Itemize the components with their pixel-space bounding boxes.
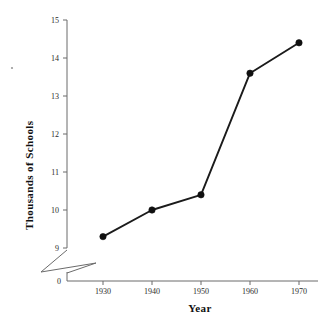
data-series [100, 40, 302, 240]
y-tick-label-14: 14 [51, 54, 59, 63]
y-tick-label-15: 15 [51, 16, 59, 25]
x-tick-label-1930: 1930 [95, 287, 111, 296]
line-chart: 15 14 13 12 11 10 9 0 Thousands of Schoo… [0, 0, 327, 316]
data-point-1960 [247, 70, 253, 76]
y-axis: 15 14 13 12 11 10 9 0 Thousands of Schoo… [23, 16, 96, 286]
y-tick-label-9: 9 [55, 244, 59, 253]
data-point-1970 [296, 40, 302, 46]
x-tick-label-1940: 1940 [144, 287, 160, 296]
y-tick-label-10: 10 [51, 206, 59, 215]
data-point-1930 [100, 233, 106, 239]
y-tick-label-12: 12 [51, 130, 59, 139]
x-axis-title: Year [188, 302, 212, 314]
series-line [103, 43, 299, 237]
y-axis-title: Thousands of Schools [23, 120, 35, 230]
x-tick-label-1960: 1960 [242, 287, 258, 296]
y-tick-label-13: 13 [51, 92, 59, 101]
axis-break-icon [41, 250, 96, 273]
x-tick-label-1950: 1950 [193, 287, 209, 296]
scan-speck [11, 67, 13, 69]
x-tick-label-1970: 1970 [291, 287, 307, 296]
data-point-1950 [198, 192, 204, 198]
y-tick-label-11: 11 [51, 168, 59, 177]
x-axis: 1930 1940 1950 1960 1970 Year [67, 281, 318, 314]
series-markers [100, 40, 302, 240]
chart-canvas: 15 14 13 12 11 10 9 0 Thousands of Schoo… [0, 0, 327, 316]
data-point-1940 [149, 207, 155, 213]
y-tick-label-0: 0 [57, 277, 61, 286]
